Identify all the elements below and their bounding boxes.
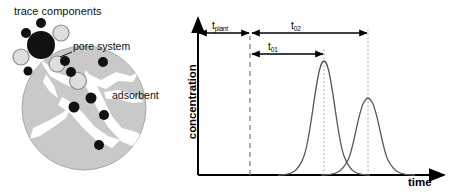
x-axis-label: time: [408, 177, 432, 189]
trace-component-light: [53, 25, 69, 41]
t-plant-subscript: plant: [215, 25, 228, 32]
trace-component-dark: [21, 28, 31, 38]
adsorbent-particle-schematic: trace components pore system adsorbent: [0, 0, 190, 194]
trace-component-dark: [27, 31, 55, 59]
particle-drawing: [0, 0, 190, 194]
trace-component-light: [13, 49, 29, 65]
trace-component-dark: [66, 67, 76, 77]
trace-component-dark: [86, 93, 97, 104]
pore-system-label: pore system: [73, 41, 130, 52]
t-01-label: t01: [268, 42, 278, 52]
trace-component-dark: [99, 110, 109, 120]
t-02-label: t02: [291, 21, 301, 31]
t-02-subscript: 02: [294, 25, 301, 32]
t-plant-label: tplant: [212, 21, 228, 31]
figure-root: trace components pore system adsorbent: [0, 0, 462, 194]
trace-component-dark: [94, 140, 104, 150]
trace-component-dark: [36, 18, 46, 28]
trace-components-label: trace components: [14, 6, 101, 17]
adsorbent-particle: [22, 46, 146, 170]
t-01-subscript: 01: [271, 46, 278, 53]
trace-component-dark: [24, 67, 33, 76]
trace-component-dark: [69, 102, 80, 113]
concentration-time-chart: concentration time tplant t02 t01: [186, 0, 462, 194]
adsorbent-label: adsorbent: [112, 90, 159, 101]
trace-component-dark: [98, 57, 108, 67]
trace-component-dark: [60, 56, 70, 66]
y-axis-label: concentration: [187, 64, 199, 139]
